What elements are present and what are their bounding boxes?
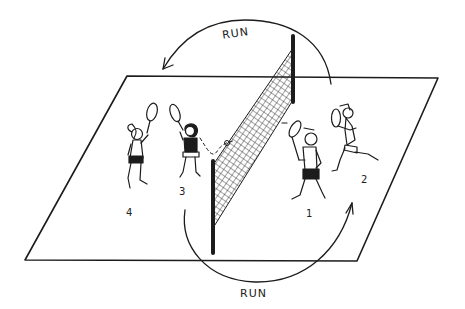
- run-label-top: RUN: [221, 25, 249, 42]
- player-4: [128, 102, 159, 188]
- player-2: [332, 104, 379, 171]
- badminton-court-diagram: 4 3 1 2 RUN RUN: [0, 0, 465, 309]
- player-label-1: 1: [306, 208, 312, 219]
- player-label-2: 2: [361, 174, 367, 185]
- player-label-3: 3: [179, 186, 185, 197]
- run-label-bottom: RUN: [240, 287, 267, 300]
- player-3: [168, 103, 200, 177]
- player-label-4: 4: [126, 207, 132, 218]
- run-arrow-bottom: [184, 203, 352, 282]
- player-1: [282, 119, 325, 199]
